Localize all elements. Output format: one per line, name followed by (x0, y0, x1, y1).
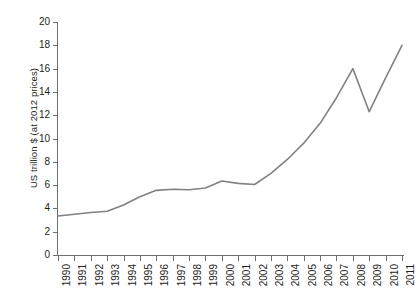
y-tick-label: 2 (44, 227, 50, 237)
y-tick-label: 12 (39, 110, 50, 120)
x-tick-mark (74, 256, 75, 261)
plot-area: 02468101214161820 (58, 22, 403, 255)
x-tick-mark (124, 256, 125, 261)
x-tick-label: 2001 (242, 264, 252, 286)
x-tick-mark (320, 256, 321, 261)
x-tick-mark (238, 256, 239, 261)
x-tick-label: 1992 (95, 264, 105, 286)
x-tick-mark (336, 256, 337, 261)
line-chart: US trillion $ (at 2012 prices) 024681012… (0, 0, 419, 306)
x-tick-layer: 1990199119921993199419951996199719981999… (58, 256, 403, 306)
x-tick-mark (156, 256, 157, 261)
x-tick-label: 1997 (177, 264, 187, 286)
x-tick-label: 1991 (78, 264, 88, 286)
x-tick-mark (402, 256, 403, 261)
x-tick-mark (369, 256, 370, 261)
x-tick-label: 2007 (340, 264, 350, 286)
x-tick-label: 2003 (275, 264, 285, 286)
x-tick-mark (107, 256, 108, 261)
x-tick-label: 2004 (291, 264, 301, 286)
y-tick-label: 6 (44, 180, 50, 190)
x-tick-label: 1993 (111, 264, 121, 286)
x-tick-mark (91, 256, 92, 261)
y-tick-label: 18 (39, 40, 50, 50)
y-tick-label: 14 (39, 87, 50, 97)
y-tick-label: 8 (44, 157, 50, 167)
x-tick-mark (287, 256, 288, 261)
x-tick-label: 2002 (259, 264, 269, 286)
y-tick-label: 4 (44, 203, 50, 213)
x-tick-mark (271, 256, 272, 261)
x-tick-label: 1999 (209, 264, 219, 286)
y-tick-label: 16 (39, 64, 50, 74)
x-tick-label: 2000 (226, 264, 236, 286)
x-tick-label: 1996 (160, 264, 170, 286)
x-tick-label: 2011 (406, 264, 416, 286)
y-tick-label: 0 (44, 250, 50, 260)
x-tick-mark (255, 256, 256, 261)
x-tick-mark (173, 256, 174, 261)
x-tick-label: 2005 (308, 264, 318, 286)
x-tick-label: 1994 (128, 264, 138, 286)
x-tick-mark (205, 256, 206, 261)
x-tick-mark (386, 256, 387, 261)
x-tick-mark (189, 256, 190, 261)
y-tick-label: 20 (39, 17, 50, 27)
x-tick-label: 2008 (357, 264, 367, 286)
x-tick-label: 2009 (373, 264, 383, 286)
x-tick-mark (222, 256, 223, 261)
x-tick-label: 2006 (324, 264, 334, 286)
x-tick-label: 1998 (193, 264, 203, 286)
x-tick-mark (353, 256, 354, 261)
x-tick-label: 1990 (62, 264, 72, 286)
x-tick-mark (140, 256, 141, 261)
x-tick-mark (58, 256, 59, 261)
x-tick-mark (304, 256, 305, 261)
x-tick-label: 1995 (144, 264, 154, 286)
data-series-line (58, 22, 403, 255)
y-tick-label: 10 (39, 134, 50, 144)
x-tick-label: 2010 (390, 264, 400, 286)
